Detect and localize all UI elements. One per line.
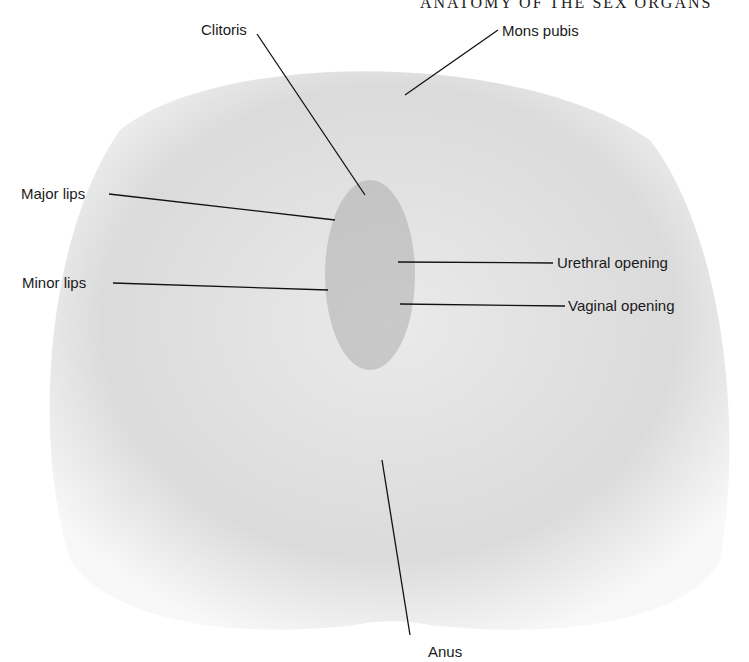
- label-clitoris: Clitoris: [201, 21, 247, 38]
- label-minor-lips: Minor lips: [22, 274, 86, 291]
- label-vaginal-opening: Vaginal opening: [568, 297, 674, 314]
- anatomy-figure: Clitoris Mons pubis Major lips Minor lip…: [0, 0, 749, 662]
- label-major-lips: Major lips: [21, 185, 85, 202]
- label-mons-pubis: Mons pubis: [502, 22, 579, 39]
- figure-illustration-placeholder: [0, 0, 749, 662]
- label-anus: Anus: [428, 643, 462, 660]
- label-urethral-opening: Urethral opening: [557, 254, 668, 271]
